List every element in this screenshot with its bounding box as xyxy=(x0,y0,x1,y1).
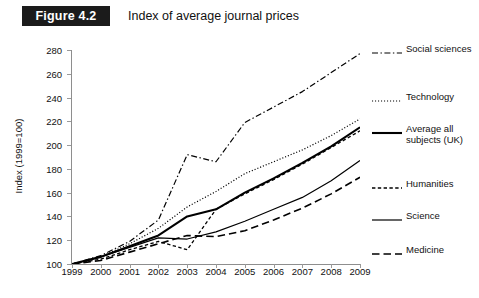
x-axis-tick-label: 2005 xyxy=(234,266,255,277)
y-axis-tick xyxy=(67,193,71,194)
legend-line-swatch xyxy=(372,250,402,258)
chart-legend: Social sciencesTechnologyAverage all sub… xyxy=(372,40,479,265)
legend-item-label: Science xyxy=(406,210,479,221)
y-axis-tick xyxy=(67,216,71,217)
y-axis-tick xyxy=(67,74,71,75)
y-axis-tick-label: 120 xyxy=(46,235,62,246)
y-axis-line xyxy=(71,50,72,264)
legend-item-label: Medicine xyxy=(406,244,479,255)
y-axis-tick xyxy=(67,240,71,241)
legend-item-label: Social sciences xyxy=(406,43,479,54)
y-axis-tick xyxy=(67,145,71,146)
y-axis-tick-label: 200 xyxy=(46,140,62,151)
y-axis-tick-label: 140 xyxy=(46,211,62,222)
series-line xyxy=(72,131,360,264)
x-axis-tick-label: 2006 xyxy=(263,266,284,277)
y-axis-tick xyxy=(67,169,71,170)
legend-line-swatch xyxy=(372,184,402,192)
x-axis-tick-label: 2008 xyxy=(321,266,342,277)
x-axis-tick-label: 1999 xyxy=(61,266,82,277)
legend-item-label: Average all subjects (UK) xyxy=(406,123,479,145)
y-axis-tick-label: 220 xyxy=(46,116,62,127)
legend-item-label: Technology xyxy=(406,91,479,102)
x-axis-tick-label: 2000 xyxy=(90,266,111,277)
series-line xyxy=(72,119,360,264)
x-axis-tick-label: 2002 xyxy=(148,266,169,277)
plot-area xyxy=(72,50,360,264)
legend-item-label: Humanities xyxy=(406,178,479,189)
y-axis-tick xyxy=(67,98,71,99)
y-axis-tick xyxy=(67,264,71,265)
y-axis-tick-label: 160 xyxy=(46,187,62,198)
x-axis-labels: 1999200020012002200320042005200620072008… xyxy=(72,266,362,282)
y-axis-tick xyxy=(67,50,71,51)
y-axis-labels: 100120140160180200220240260280 xyxy=(0,50,70,264)
y-axis-tick-label: 240 xyxy=(46,92,62,103)
y-axis-tick-label: 280 xyxy=(46,45,62,56)
figure-container: Figure 4.2 Index of average journal pric… xyxy=(0,0,479,298)
x-axis-tick-label: 2003 xyxy=(177,266,198,277)
figure-title: Index of average journal prices xyxy=(128,6,299,26)
y-axis-tick-label: 100 xyxy=(46,259,62,270)
x-axis-tick-label: 2007 xyxy=(292,266,313,277)
legend-line-swatch xyxy=(372,49,402,57)
x-axis-tick-label: 2001 xyxy=(119,266,140,277)
y-axis-tick xyxy=(67,121,71,122)
x-axis-tick-label: 2009 xyxy=(349,266,370,277)
legend-line-swatch xyxy=(372,216,402,224)
chart-lines xyxy=(72,50,360,264)
x-axis-tick-label: 2004 xyxy=(205,266,226,277)
y-axis-tick-label: 180 xyxy=(46,163,62,174)
series-line xyxy=(72,127,360,264)
figure-header: Figure 4.2 Index of average journal pric… xyxy=(0,6,479,30)
legend-line-swatch xyxy=(372,129,402,137)
legend-line-swatch xyxy=(372,97,402,105)
figure-number-badge: Figure 4.2 xyxy=(22,6,110,26)
y-axis-tick-label: 260 xyxy=(46,68,62,79)
